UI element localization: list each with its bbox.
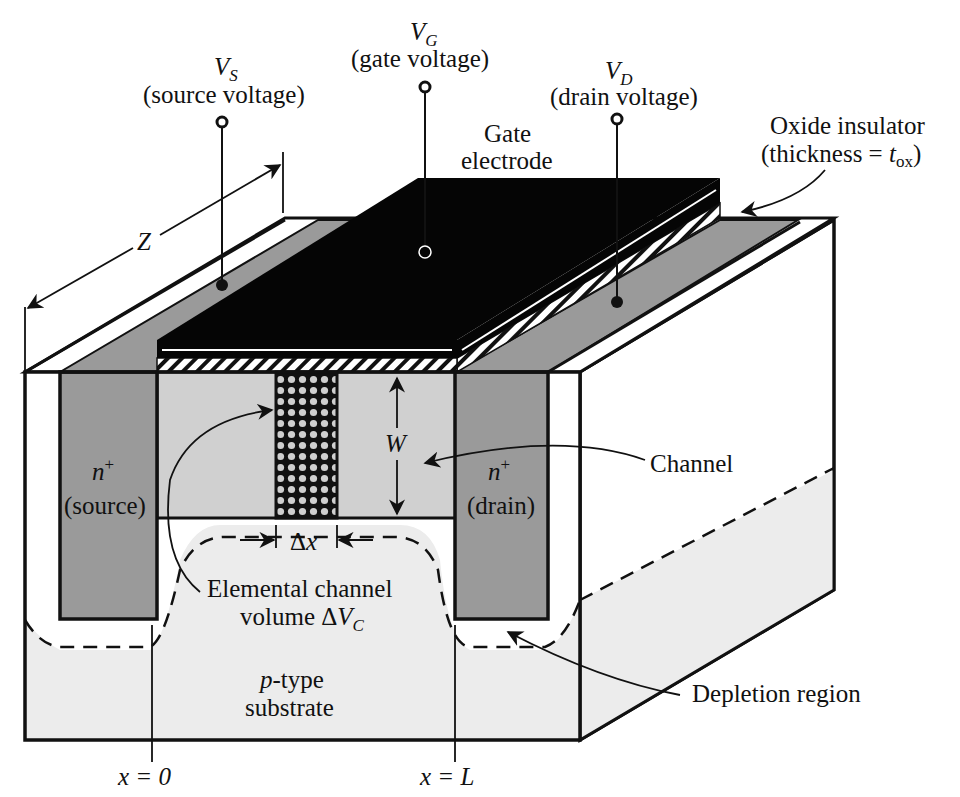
svg-text:(thickness = tox): (thickness = tox)	[761, 140, 921, 171]
drain-terminal-icon	[612, 114, 622, 124]
mosfet-diagram: Z W Δx VS (source voltage) VG (gate volt…	[0, 0, 960, 797]
source-voltage-label: VS (source voltage)	[143, 53, 305, 109]
svg-text:Channel: Channel	[650, 450, 733, 477]
w-label: W	[385, 430, 408, 457]
drain-voltage-label: VD (drain voltage)	[550, 57, 698, 111]
svg-text:(drain): (drain)	[467, 492, 535, 520]
gate-terminal-icon	[420, 82, 430, 92]
svg-text:substrate: substrate	[245, 694, 334, 721]
svg-text:(source): (source)	[64, 492, 146, 520]
svg-text:Gate: Gate	[484, 120, 531, 147]
oxide-insulator-label: Oxide insulator (thickness = tox)	[742, 112, 926, 212]
svg-text:(gate voltage): (gate voltage)	[351, 45, 489, 73]
svg-text:p-type: p-type	[258, 666, 324, 693]
svg-text:electrode: electrode	[461, 147, 553, 174]
svg-text:Elemental channel: Elemental channel	[207, 575, 392, 602]
svg-text:Depletion region: Depletion region	[692, 680, 861, 707]
z-label: Z	[137, 228, 152, 255]
x0-label: x = 0	[117, 763, 171, 790]
gate-voltage-label: VG (gate voltage)	[351, 18, 489, 73]
svg-text:Oxide insulator: Oxide insulator	[770, 112, 926, 139]
xL-label: x = L	[419, 763, 474, 790]
svg-text:(source voltage): (source voltage)	[143, 81, 305, 109]
source-terminal-icon	[217, 117, 227, 127]
svg-text:(drain voltage): (drain voltage)	[550, 83, 698, 111]
gate-electrode-label: Gate electrode	[461, 120, 553, 174]
dx-label: Δx	[290, 528, 317, 555]
